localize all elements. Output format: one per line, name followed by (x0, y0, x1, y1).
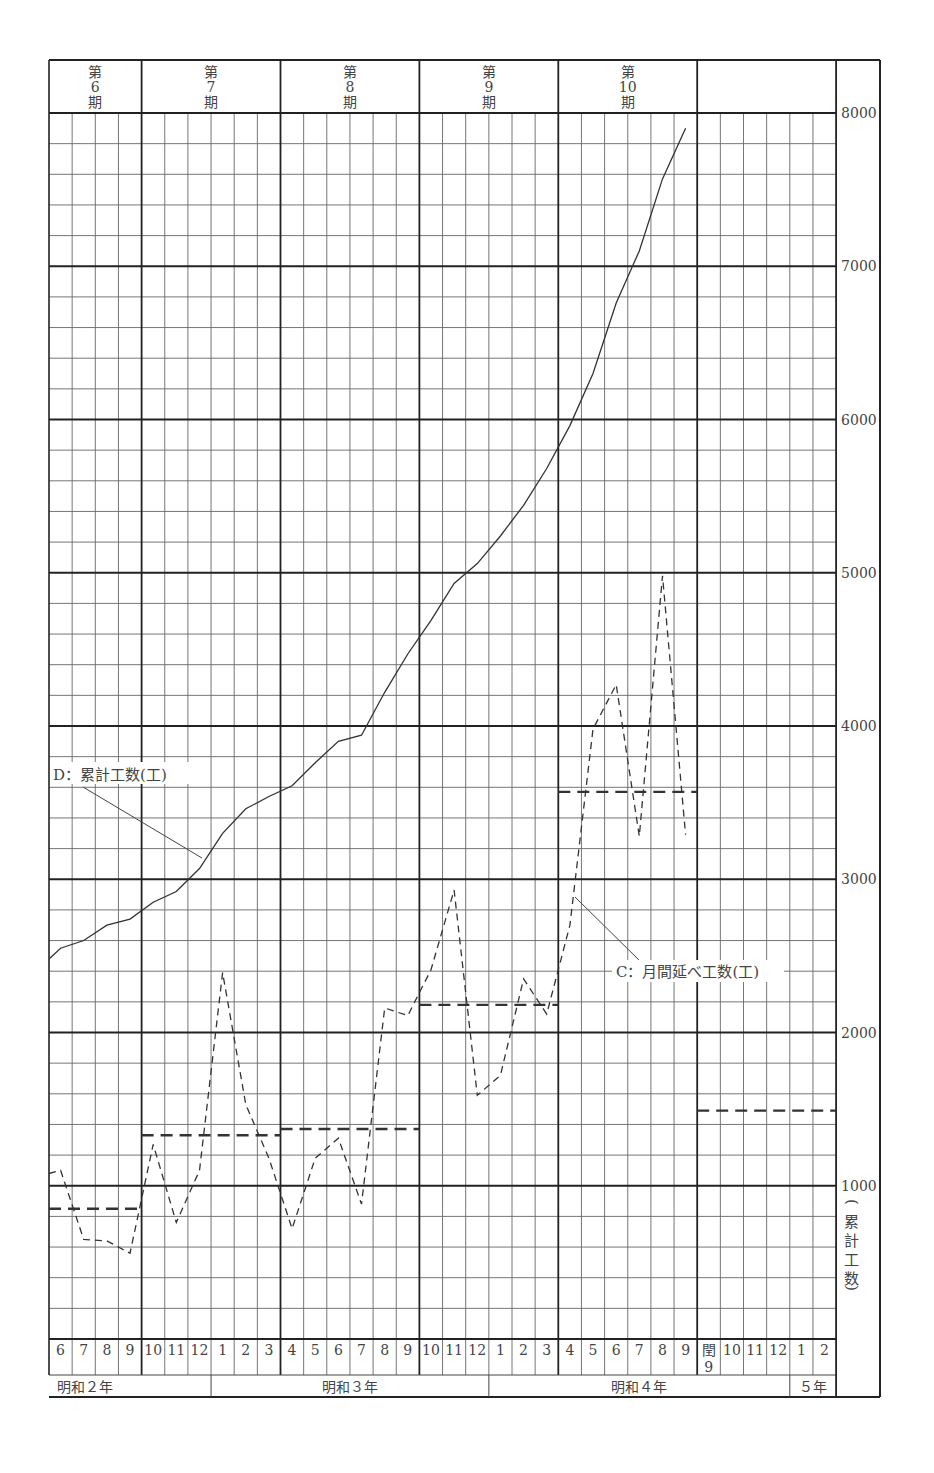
month-label: 1 (797, 1342, 806, 1358)
month-label: 6 (56, 1342, 65, 1358)
year-label: ５年 (799, 1379, 827, 1395)
y-tick-label: 8000 (841, 105, 877, 121)
month-label: 4 (288, 1342, 297, 1358)
month-label: 10 (144, 1342, 162, 1358)
svg-text:(: ( (843, 1199, 861, 1205)
annotation-d: D：累計工数(工) (50, 762, 202, 858)
month-label: 12 (191, 1342, 209, 1358)
annotation-c-label: C：月間延べ工数(工) (616, 963, 759, 981)
period-label: 第 (621, 64, 635, 80)
month-label: 6 (612, 1342, 621, 1358)
month-label: 8 (658, 1342, 667, 1358)
month-label: 6 (334, 1342, 343, 1358)
month-label: 11 (445, 1342, 463, 1358)
period-headers: 第6期第7期第8期第9期第10期 (88, 64, 636, 110)
month-label: 9 (126, 1342, 135, 1358)
period-label: 期 (343, 94, 357, 110)
month-label: 1 (496, 1342, 505, 1358)
cumulative-workload-line (49, 128, 686, 959)
month-label: 閏 (702, 1342, 716, 1358)
month-label: 5 (589, 1342, 598, 1358)
month-label: 9 (681, 1342, 690, 1358)
month-label: 7 (357, 1342, 366, 1358)
y-tick-label: 5000 (841, 565, 877, 581)
period-label: 期 (204, 94, 218, 110)
period-label: 第 (343, 64, 357, 80)
month-label: 2 (519, 1342, 528, 1358)
year-label: 明和２年 (57, 1379, 113, 1395)
month-label: 10 (723, 1342, 741, 1358)
period-label: 9 (484, 79, 493, 95)
chart-frame (49, 60, 880, 1397)
svg-text:): ) (843, 1285, 861, 1291)
y-tick-label: 3000 (841, 871, 877, 887)
month-label: 8 (102, 1342, 111, 1358)
period-label: 6 (91, 79, 100, 95)
svg-text:累: 累 (844, 1213, 859, 1231)
month-label: 12 (468, 1342, 486, 1358)
month-label: 4 (565, 1342, 574, 1358)
y-tick-label: 2000 (841, 1025, 877, 1041)
monthly-workload-line (49, 576, 686, 1253)
leader-line-c (575, 897, 642, 963)
month-label: 2 (241, 1342, 250, 1358)
month-label: 11 (167, 1342, 185, 1358)
y-tick-label: 7000 (841, 258, 877, 274)
month-label: 7 (79, 1342, 88, 1358)
month-label: 9 (403, 1342, 412, 1358)
period-label: 期 (621, 94, 635, 110)
cumulative-workload-chart: 第6期第7期第8期第9期第10期 10002000300040005000600… (0, 0, 934, 1473)
annotation-d-label: D：累計工数(工) (53, 766, 167, 784)
y-tick-label: 4000 (841, 718, 877, 734)
month-label: 2 (820, 1342, 829, 1358)
period-label: 10 (619, 79, 637, 95)
y-tick-label: 6000 (841, 412, 877, 428)
month-label: 5 (311, 1342, 320, 1358)
period-label: 7 (207, 79, 216, 95)
month-label: 7 (635, 1342, 644, 1358)
y-axis-ticks: 10002000300040005000600070008000 (841, 105, 877, 1194)
period-label: 第 (204, 64, 218, 80)
y-axis-title: ( 累 計 工 数 ) (843, 1199, 861, 1291)
year-label: 明和３年 (322, 1379, 378, 1395)
y-tick-label: 1000 (841, 1178, 877, 1194)
month-label: 8 (380, 1342, 389, 1358)
period-label: 第 (482, 64, 496, 80)
year-label: 明和４年 (611, 1379, 667, 1395)
month-label: 3 (542, 1342, 551, 1358)
svg-text:工: 工 (844, 1251, 859, 1269)
period-label: 第 (88, 64, 102, 80)
month-label: 3 (264, 1342, 273, 1358)
svg-text:計: 計 (844, 1232, 859, 1250)
month-label: 12 (769, 1342, 787, 1358)
month-label: 11 (746, 1342, 764, 1358)
month-label: 9 (704, 1359, 713, 1375)
month-label: 10 (422, 1342, 440, 1358)
period-label: 8 (345, 79, 354, 95)
year-axis: 明和２年明和３年明和４年５年 (57, 1375, 827, 1397)
period-label: 期 (482, 94, 496, 110)
month-label: 1 (218, 1342, 227, 1358)
period-label: 期 (88, 94, 102, 110)
